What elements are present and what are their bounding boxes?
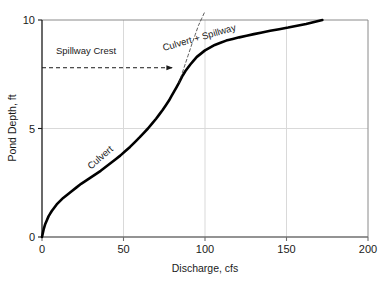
x-tick-label: 0 bbox=[39, 243, 45, 255]
x-tick-label: 50 bbox=[117, 243, 129, 255]
y-tick-label: 5 bbox=[29, 123, 35, 135]
spillway-crest-label: Spillway Crest bbox=[56, 45, 117, 56]
y-tick-labels: 0510 bbox=[23, 14, 35, 243]
x-tick-label: 100 bbox=[196, 243, 214, 255]
y-tick-label: 0 bbox=[29, 231, 35, 243]
x-axis-title: Discharge, cfs bbox=[172, 262, 239, 274]
y-axis-title: Pond Depth, ft bbox=[6, 94, 18, 161]
chart-figure: 050100150200 0510 Spillway CrestCulvertC… bbox=[0, 0, 385, 282]
y-tick-label: 10 bbox=[23, 14, 35, 26]
x-tick-label: 200 bbox=[359, 243, 377, 255]
x-tick-label: 150 bbox=[277, 243, 295, 255]
stage-discharge-chart: 050100150200 0510 Spillway CrestCulvertC… bbox=[0, 0, 385, 282]
x-tick-labels: 050100150200 bbox=[39, 243, 377, 255]
